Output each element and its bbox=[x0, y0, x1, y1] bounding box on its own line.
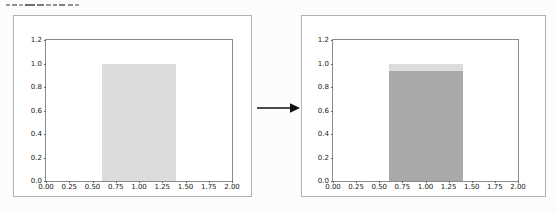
x-tick-mark bbox=[116, 181, 117, 183]
x-tick-mark bbox=[449, 181, 450, 183]
x-tick-label: 0.00 bbox=[325, 184, 341, 191]
x-tick-mark bbox=[333, 181, 334, 183]
x-tick-mark bbox=[46, 181, 47, 183]
y-tick-label: 0.4 bbox=[31, 131, 42, 138]
y-tick-label: 1.0 bbox=[318, 60, 329, 67]
y-tick-label: 0.8 bbox=[318, 84, 329, 91]
clipped-caption-mark bbox=[25, 4, 35, 6]
x-tick-mark bbox=[139, 181, 140, 183]
bar-segment bbox=[389, 64, 463, 71]
x-tick-label: 2.00 bbox=[224, 184, 240, 191]
x-tick-mark bbox=[232, 181, 233, 183]
clipped-caption-mark bbox=[12, 4, 17, 6]
x-tick-label: 0.25 bbox=[61, 184, 77, 191]
x-tick-label: 1.50 bbox=[464, 184, 480, 191]
x-tick-label: 1.00 bbox=[418, 184, 434, 191]
clipped-caption-mark bbox=[19, 4, 23, 6]
y-tick-mark bbox=[331, 181, 333, 182]
x-tick-mark bbox=[402, 181, 403, 183]
y-tick-mark bbox=[44, 87, 46, 88]
transform-arrow-icon bbox=[256, 100, 301, 116]
x-tick-label: 1.25 bbox=[154, 184, 170, 191]
x-tick-mark bbox=[472, 181, 473, 183]
x-tick-mark bbox=[379, 181, 380, 183]
clipped-caption-mark bbox=[37, 4, 44, 6]
left-plot-area: 0.000.250.500.751.001.251.501.752.000.00… bbox=[45, 39, 233, 182]
x-tick-label: 1.00 bbox=[131, 184, 147, 191]
x-tick-label: 0.50 bbox=[371, 184, 387, 191]
x-tick-mark bbox=[209, 181, 210, 183]
x-tick-mark bbox=[495, 181, 496, 183]
right-plot-area: 0.000.250.500.751.001.251.501.752.000.00… bbox=[332, 39, 519, 182]
y-tick-label: 0.0 bbox=[318, 178, 329, 185]
x-tick-label: 1.75 bbox=[487, 184, 503, 191]
y-tick-mark bbox=[44, 40, 46, 41]
x-tick-mark bbox=[356, 181, 357, 183]
x-tick-label: 0.50 bbox=[85, 184, 101, 191]
y-tick-label: 0.2 bbox=[318, 154, 329, 161]
y-tick-label: 1.0 bbox=[31, 60, 42, 67]
x-tick-mark bbox=[93, 181, 94, 183]
y-tick-mark bbox=[331, 87, 333, 88]
y-tick-mark bbox=[44, 158, 46, 159]
x-tick-label: 1.25 bbox=[441, 184, 457, 191]
clipped-caption-mark bbox=[53, 4, 57, 6]
y-tick-label: 1.2 bbox=[31, 37, 42, 44]
y-tick-mark bbox=[331, 134, 333, 135]
clipped-caption-mark bbox=[68, 4, 73, 6]
y-tick-label: 0.8 bbox=[31, 84, 42, 91]
x-tick-mark bbox=[426, 181, 427, 183]
x-tick-label: 0.75 bbox=[395, 184, 411, 191]
y-tick-mark bbox=[331, 40, 333, 41]
y-tick-mark bbox=[331, 158, 333, 159]
y-tick-label: 1.2 bbox=[318, 37, 329, 44]
y-tick-label: 0.6 bbox=[31, 107, 42, 114]
clipped-caption-mark bbox=[59, 4, 65, 6]
x-tick-mark bbox=[162, 181, 163, 183]
y-tick-mark bbox=[331, 64, 333, 65]
clipped-caption-mark bbox=[46, 4, 51, 6]
x-tick-label: 0.75 bbox=[108, 184, 124, 191]
y-tick-mark bbox=[44, 181, 46, 182]
y-tick-label: 0.4 bbox=[318, 131, 329, 138]
y-tick-label: 0.0 bbox=[31, 178, 42, 185]
arrow-right-icon bbox=[256, 100, 301, 116]
figure-canvas: { "page": { "background": "#fcfcfc", "bo… bbox=[0, 0, 557, 213]
clipped-caption-text bbox=[6, 0, 92, 6]
x-tick-label: 0.00 bbox=[38, 184, 54, 191]
x-tick-mark bbox=[186, 181, 187, 183]
left-chart-panel: 0.000.250.500.751.001.251.501.752.000.00… bbox=[13, 15, 252, 197]
x-tick-label: 2.00 bbox=[510, 184, 526, 191]
bar-segment bbox=[102, 64, 176, 182]
right-chart-panel: 0.000.250.500.751.001.251.501.752.000.00… bbox=[301, 15, 546, 197]
x-tick-mark bbox=[518, 181, 519, 183]
clipped-caption-mark bbox=[75, 4, 79, 6]
bar-segment bbox=[389, 71, 463, 181]
x-tick-label: 1.75 bbox=[201, 184, 217, 191]
clipped-caption-mark bbox=[6, 4, 10, 6]
y-tick-mark bbox=[331, 111, 333, 112]
y-tick-mark bbox=[44, 111, 46, 112]
y-tick-label: 0.2 bbox=[31, 154, 42, 161]
x-tick-label: 0.25 bbox=[348, 184, 364, 191]
y-tick-mark bbox=[44, 64, 46, 65]
y-tick-label: 0.6 bbox=[318, 107, 329, 114]
x-tick-label: 1.50 bbox=[178, 184, 194, 191]
y-tick-mark bbox=[44, 134, 46, 135]
x-tick-mark bbox=[69, 181, 70, 183]
